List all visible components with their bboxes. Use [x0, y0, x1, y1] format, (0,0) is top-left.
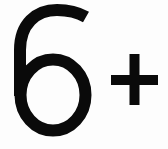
- age-rating-mark: 6+: [0, 0, 168, 149]
- plus-sign-glyph: [111, 54, 158, 105]
- digit-six-glyph: [20, 10, 86, 131]
